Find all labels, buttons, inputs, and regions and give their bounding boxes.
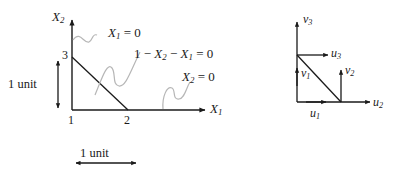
equation-constraint: 1 − X2 − X1 = 0 bbox=[134, 47, 213, 62]
right-diagram-frame bbox=[297, 22, 370, 102]
figure-vector-graphics bbox=[0, 0, 400, 185]
x-tick-2: 2 bbox=[124, 114, 130, 126]
y-tick-3: 3 bbox=[62, 49, 68, 61]
leader-squiggle-x2 bbox=[163, 82, 190, 109]
y-axis-label: X2 bbox=[52, 10, 64, 25]
vector-label-u1: u1 bbox=[310, 107, 320, 121]
horizontal-unit-label: 1 unit bbox=[80, 147, 109, 160]
vector-label-u3: u3 bbox=[331, 47, 341, 61]
equation-x2-zero: X2 = 0 bbox=[182, 70, 215, 85]
x-axis-label: X1 bbox=[210, 102, 222, 117]
vertical-unit-label: 1 unit bbox=[8, 78, 37, 91]
leader-squiggle-x1 bbox=[73, 35, 97, 43]
vector-label-v3: v3 bbox=[303, 13, 312, 27]
vector-label-v1: v1 bbox=[301, 67, 310, 81]
equation-x1-zero: X1 = 0 bbox=[108, 26, 141, 41]
vector-label-v2: v2 bbox=[345, 64, 354, 78]
vector-label-u2: u2 bbox=[373, 96, 383, 110]
x-tick-1: 1 bbox=[68, 114, 74, 126]
figure-canvas: X2 X1 3 1 2 X1 = 0 1 − X2 − X1 = 0 X2 = … bbox=[0, 0, 400, 185]
